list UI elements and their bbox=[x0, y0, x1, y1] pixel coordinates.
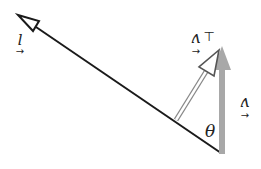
label-v-perp: v ← ⊥ bbox=[191, 29, 214, 57]
vector-arrow-icon: ← bbox=[241, 110, 249, 121]
label-v: v ← bbox=[240, 94, 249, 121]
vector-diagram: l ← v ← ⊥ v ← θ bbox=[0, 0, 261, 169]
label-theta: θ bbox=[205, 121, 215, 141]
vector-arrow-icon: ← bbox=[192, 46, 200, 57]
vector-l bbox=[18, 15, 221, 153]
perp-mark: ⊥ bbox=[203, 29, 214, 44]
vector-arrow-icon: ← bbox=[16, 46, 24, 57]
arrowhead-open-double-icon bbox=[199, 50, 219, 76]
svg-text:l: l bbox=[17, 30, 22, 48]
label-l: l ← bbox=[16, 30, 24, 57]
arrowhead-open-icon bbox=[18, 15, 39, 31]
vector-v-perp bbox=[176, 50, 219, 120]
